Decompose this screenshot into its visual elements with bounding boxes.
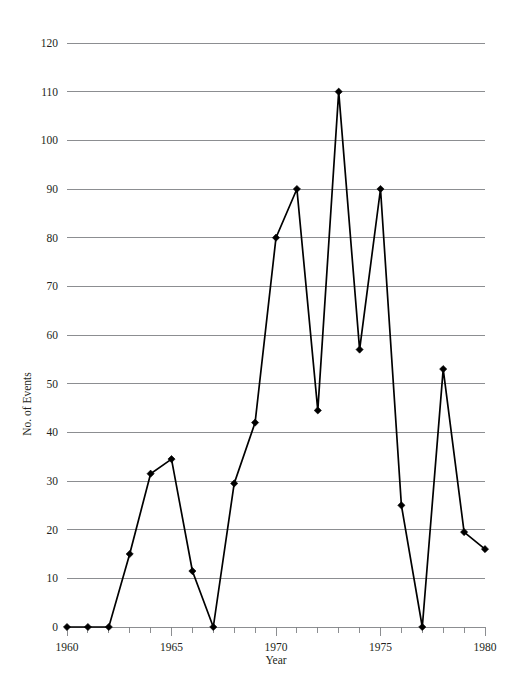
data-point-1976: [398, 502, 405, 509]
data-point-1974: [356, 346, 363, 353]
y-tick-label-10: 10: [47, 572, 59, 584]
series-line: [67, 92, 485, 627]
y-axis-title: No. of Events: [21, 372, 33, 436]
y-tick-label-60: 60: [47, 329, 59, 341]
data-point-1975: [377, 185, 384, 192]
y-tick-label-80: 80: [47, 232, 59, 244]
data-point-1966: [189, 567, 196, 574]
gridlines-group: [67, 43, 485, 627]
data-point-1960: [63, 623, 70, 630]
y-tick-label-30: 30: [47, 475, 59, 487]
data-point-1962: [105, 623, 112, 630]
y-tick-label-0: 0: [52, 621, 58, 633]
x-tick-label-1975: 1975: [369, 641, 392, 653]
data-point-1972: [314, 407, 321, 414]
data-point-1961: [84, 623, 91, 630]
y-tick-label-100: 100: [41, 134, 59, 146]
y-tick-label-120: 120: [41, 37, 59, 49]
x-tick-label-1965: 1965: [160, 641, 183, 653]
chart-container: 0102030405060708090100110120 19601965197…: [0, 0, 516, 699]
data-point-1969: [252, 419, 259, 426]
y-tick-label-70: 70: [47, 280, 59, 292]
y-tick-label-110: 110: [41, 86, 58, 98]
data-series-group: [63, 88, 488, 631]
y-tick-label-20: 20: [47, 524, 59, 536]
data-point-1967: [210, 623, 217, 630]
y-tick-label-50: 50: [47, 378, 59, 390]
data-point-1978: [440, 365, 447, 372]
data-point-1971: [293, 185, 300, 192]
line-chart: 0102030405060708090100110120 19601965197…: [0, 0, 516, 699]
y-tick-label-90: 90: [47, 183, 59, 195]
x-tick-label-1960: 1960: [56, 641, 79, 653]
y-tick-labels-group: 0102030405060708090100110120: [41, 37, 59, 633]
x-axis-title: Year: [265, 654, 286, 666]
y-tick-label-40: 40: [47, 426, 59, 438]
data-point-1977: [419, 623, 426, 630]
series-markers: [63, 88, 488, 631]
data-point-1973: [335, 88, 342, 95]
x-tick-label-1980: 1980: [474, 641, 497, 653]
x-tick-labels-group: 19601965197019751980: [56, 641, 497, 653]
data-point-1970: [272, 234, 279, 241]
data-point-1963: [126, 550, 133, 557]
x-tick-label-1970: 1970: [265, 641, 288, 653]
